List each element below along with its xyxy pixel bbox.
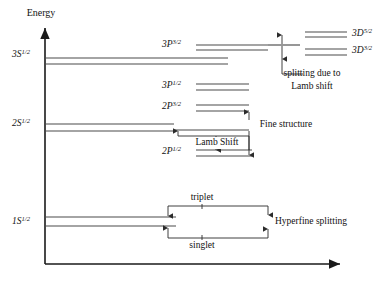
level-label-3s12: 3S1/2 xyxy=(11,47,31,59)
fine-structure-label: Fine structure xyxy=(260,119,313,129)
splitting-label-line2: Lamb shift xyxy=(291,81,333,91)
annotation-lamb-shift: Lamb Shift xyxy=(178,131,249,150)
level-label-2p12: 2P1/2 xyxy=(162,144,182,156)
level-2p32: 2P3/2 xyxy=(162,99,249,111)
level-3d52: 3D5/2 xyxy=(305,26,373,38)
annotation-fine-structure: Fine structure xyxy=(249,112,312,155)
level-label-2p32: 2P3/2 xyxy=(162,99,182,111)
level-2s12: 2S1/2 xyxy=(12,116,249,131)
level-3s12: 3S1/2 xyxy=(11,47,228,64)
level-1s12: 1S1/2 xyxy=(12,214,176,226)
level-label-3d32: 3D3/2 xyxy=(351,43,373,55)
hyperfine-splitting-label: Hyperfine splitting xyxy=(275,216,347,226)
singlet-label: singlet xyxy=(189,240,215,250)
level-3p32: 3P3/2 xyxy=(161,37,300,50)
y-axis-label: Energy xyxy=(27,7,56,18)
energy-level-diagram: Energy 3S1/2 2S1/2 1S1/2 xyxy=(0,0,384,282)
level-label-2s12: 2S1/2 xyxy=(12,116,31,128)
annotation-splitting-lamb-shift: splitting due to Lamb shift xyxy=(282,35,341,91)
level-label-3p32: 3P3/2 xyxy=(161,37,182,49)
level-3p12: 3P1/2 xyxy=(161,78,249,90)
triplet-label: triplet xyxy=(191,192,214,202)
splitting-label-line1: splitting due to xyxy=(284,68,341,78)
level-3d32: 3D3/2 xyxy=(305,43,373,55)
level-label-3p12: 3P1/2 xyxy=(161,78,182,90)
level-label-3d52: 3D5/2 xyxy=(351,26,373,38)
level-label-1s12: 1S1/2 xyxy=(12,214,31,226)
lamb-shift-label: Lamb Shift xyxy=(195,137,238,147)
diagram-canvas: Energy 3S1/2 2S1/2 1S1/2 xyxy=(0,0,384,282)
annotation-hyperfine: triplet singlet Hyperfine splitting xyxy=(168,192,347,252)
